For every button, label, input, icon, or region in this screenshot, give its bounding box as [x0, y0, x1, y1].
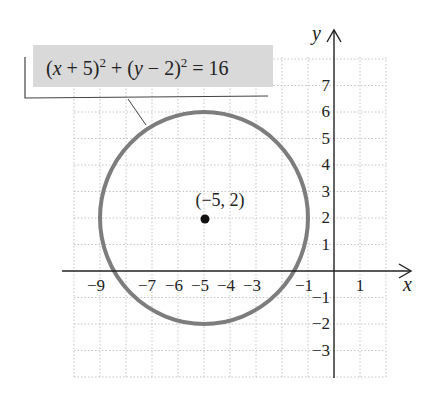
- y-tick: −2: [312, 314, 330, 333]
- equation-text: (x + 5)2 + (y − 2)2 = 16: [46, 55, 229, 80]
- x-tick: −4: [217, 276, 236, 295]
- x-tick: −9: [87, 276, 105, 295]
- x-tick: 1: [356, 276, 365, 295]
- eq-rest: − 2): [143, 57, 181, 80]
- circle-graph: x y −9 −7 −6 −5 −4 −3 −1 1 7 6 5 4 3 2 1…: [0, 0, 439, 402]
- y-tick: 5: [322, 129, 331, 148]
- y-tick: 1: [322, 235, 331, 254]
- x-tick: −1: [295, 276, 313, 295]
- x-tick: −6: [165, 276, 183, 295]
- center-label: (−5, 2): [195, 190, 244, 211]
- y-tick: 3: [322, 182, 331, 201]
- y-tick: 7: [322, 76, 331, 95]
- x-tick: −7: [138, 276, 157, 295]
- y-tick: 4: [322, 155, 331, 174]
- y-tick: −1: [312, 288, 330, 307]
- y-tick-labels: 7 6 5 4 3 2 1 −1 −2 −3: [312, 76, 331, 360]
- y-tick: 6: [322, 102, 331, 121]
- y-axis-label: y: [310, 22, 321, 45]
- x-tick: −3: [243, 276, 261, 295]
- equation-callout: (x + 5)2 + (y − 2)2 = 16: [25, 45, 273, 125]
- center-point: [201, 215, 210, 224]
- x-tick: −5: [191, 276, 209, 295]
- grid: [74, 57, 386, 378]
- y-tick: −3: [312, 341, 330, 360]
- eq-plus: + (: [106, 57, 134, 80]
- x-axis-label: x: [402, 273, 412, 295]
- eq-y: y: [132, 57, 143, 80]
- eq-rhs: = 16: [187, 57, 228, 79]
- y-tick: 2: [322, 208, 331, 227]
